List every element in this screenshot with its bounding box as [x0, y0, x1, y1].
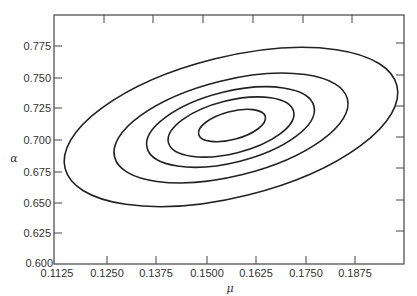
- x-axis-ticks-bottom: [107, 256, 355, 264]
- x-tick-labels: 0.1125 0.1250 0.1375 0.1500 0.1625 0.175…: [41, 267, 372, 279]
- contour-lines: [48, 18, 414, 237]
- contour-level-3: [138, 72, 322, 183]
- x-tick-label: 0.1375: [139, 267, 173, 279]
- x-tick-label: 0.1125: [41, 267, 74, 279]
- y-tick-label: 0.625: [23, 227, 51, 239]
- x-tick-label: 0.1750: [289, 267, 323, 279]
- x-tick-label: 0.1250: [90, 267, 124, 279]
- y-tick-label: 0.650: [23, 197, 51, 209]
- contour-level-4: [103, 52, 359, 203]
- x-tick-label: 0.1625: [239, 267, 273, 279]
- y-tick-label: 0.750: [23, 72, 51, 84]
- y-tick-label: 0.725: [23, 102, 51, 114]
- contour-level-1: [195, 103, 269, 148]
- y-axis-ticks-right: [396, 43, 404, 231]
- x-tick-label: 0.1875: [338, 267, 372, 279]
- x-tick-label: 0.1500: [190, 267, 224, 279]
- contour-level-2: [162, 86, 300, 169]
- x-axis-label: μ: [226, 282, 233, 295]
- x-axis-ticks-top: [104, 15, 352, 23]
- contour-chart: 0.775 0.750 0.725 0.700 0.675 0.650 0.62…: [0, 0, 417, 296]
- y-tick-label: 0.700: [23, 134, 51, 146]
- y-tick-labels: 0.775 0.750 0.725 0.700 0.675 0.650 0.62…: [23, 40, 53, 269]
- y-tick-label: 0.675: [23, 166, 51, 178]
- y-axis-ticks-left: [54, 46, 62, 233]
- contour-level-5: [48, 18, 414, 237]
- y-axis-label: α: [10, 152, 18, 165]
- y-tick-label: 0.775: [23, 40, 51, 52]
